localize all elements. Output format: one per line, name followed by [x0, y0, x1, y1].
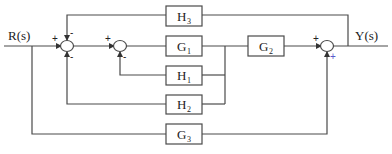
block-g2-sub: 2 — [269, 47, 273, 56]
s3-sign-bottom: + — [330, 51, 336, 62]
block-g1-letter: G — [177, 39, 186, 54]
summing-junction-3: + + — [313, 33, 336, 62]
block-h3-letter: H — [177, 9, 186, 24]
block-g1-sub: 1 — [187, 47, 191, 56]
summing-junction-1: + - - — [52, 27, 74, 62]
block-h1-sub: 1 — [187, 76, 191, 85]
g1-output-branch — [202, 46, 225, 104]
s2-sign-left: + — [105, 33, 111, 44]
block-h3: H 3 — [166, 6, 202, 26]
block-diagram: R(s) Y(s) H 3 G 1 G 2 — [0, 0, 392, 154]
h1-feedback-path — [120, 52, 166, 75]
block-g3-sub: 3 — [187, 135, 191, 144]
block-g3: G 3 — [166, 124, 202, 144]
block-h2-letter: H — [177, 97, 186, 112]
h2-feedback-path — [67, 52, 166, 104]
summing-junction-2: + - — [105, 33, 127, 62]
input-label: R(s) — [8, 28, 30, 43]
block-h2: H 2 — [166, 95, 202, 114]
block-h1-letter: H — [177, 68, 186, 83]
block-g2-letter: G — [259, 39, 268, 54]
s2-sign-bottom: - — [123, 51, 126, 62]
s1-sign-top: - — [70, 27, 73, 38]
s1-sign-bottom: - — [70, 51, 73, 62]
block-g2: G 2 — [248, 36, 284, 56]
s3-sign-left: + — [313, 33, 319, 44]
g3-feedforward-path — [32, 46, 327, 134]
block-h2-sub: 2 — [187, 105, 191, 114]
block-g3-letter: G — [177, 127, 186, 142]
block-h1: H 1 — [166, 66, 202, 85]
block-g1: G 1 — [166, 36, 202, 56]
output-label: Y(s) — [355, 28, 378, 43]
s1-sign-left: + — [52, 33, 58, 44]
block-h3-sub: 3 — [187, 17, 191, 26]
